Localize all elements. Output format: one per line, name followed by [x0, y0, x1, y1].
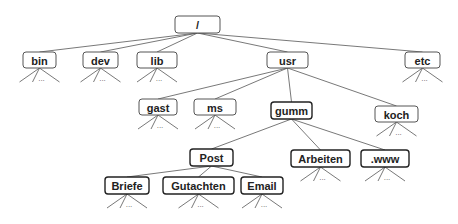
ellipsis-label: ... [319, 173, 326, 182]
folder-label: dev [91, 55, 111, 67]
folder-label: Gutachten [171, 180, 226, 192]
collapsed-fan-ms: ... [195, 115, 235, 130]
folder-label: gumm [275, 105, 308, 117]
collapsed-fan-gast: ... [138, 115, 178, 130]
fan-branch [107, 194, 127, 208]
folder-node-www[interactable]: .www [361, 150, 409, 167]
folder-node-bin[interactable]: bin [23, 52, 56, 68]
fan-branch [179, 194, 199, 208]
folder-node-root[interactable]: / [175, 16, 220, 33]
edge-usr-ms [215, 68, 288, 99]
folder-label: / [196, 19, 199, 31]
ellipsis-label: ... [384, 173, 391, 182]
ellipsis-label: ... [261, 200, 268, 209]
ellipsis-label: ... [157, 121, 164, 130]
collapsed-fan-koch: ... [377, 122, 417, 137]
folder-label: Email [247, 180, 276, 192]
folder-node-arbeiten[interactable]: Arbeiten [291, 150, 350, 167]
edge-root-bin [40, 33, 198, 52]
folder-label: Post [200, 152, 224, 164]
folder-node-gumm[interactable]: gumm [271, 102, 312, 119]
edge-usr-gast [158, 68, 288, 99]
folder-node-gutachten[interactable]: Gutachten [163, 177, 234, 194]
tree-nodes: /bindevlibusretcgastmsgummkochPostArbeit… [23, 16, 440, 194]
edge-gumm-post [212, 119, 292, 149]
edge-root-usr [198, 33, 288, 52]
folder-node-briefe[interactable]: Briefe [105, 177, 149, 194]
fan-branch [377, 122, 397, 136]
edge-post-briefe [127, 166, 212, 177]
ellipsis-label: ... [126, 200, 133, 209]
folder-label: Arbeiten [298, 153, 343, 165]
folder-node-lib[interactable]: lib [137, 52, 177, 68]
folder-node-etc[interactable]: etc [405, 52, 440, 68]
fan-branch [137, 68, 157, 82]
collapsed-fan-dev: ... [81, 68, 121, 83]
ellipsis-label: ... [395, 128, 402, 137]
collapsed-fan-arbeiten: ... [301, 167, 341, 182]
folder-label: .www [371, 153, 400, 165]
folder-node-post[interactable]: Post [190, 149, 233, 166]
folder-label: usr [279, 55, 297, 67]
edge-root-dev [101, 33, 198, 52]
ellipsis-label: ... [214, 121, 221, 130]
folder-node-dev[interactable]: dev [83, 52, 118, 68]
directory-tree-diagram: .................................... /bi… [0, 0, 458, 224]
folder-label: lib [151, 55, 164, 67]
folder-label: bin [31, 55, 48, 67]
fan-branch [20, 68, 40, 82]
fan-branch [242, 194, 262, 208]
folder-node-usr[interactable]: usr [267, 52, 308, 68]
fan-branch [195, 115, 215, 129]
collapsed-fan-lib: ... [137, 68, 177, 83]
collapsed-fan-gutachten: ... [179, 194, 219, 209]
folder-label: koch [384, 109, 410, 121]
edge-root-lib [157, 33, 198, 52]
ellipsis-label: ... [156, 74, 163, 83]
fan-branch [403, 68, 423, 82]
fan-branch [138, 115, 158, 129]
fan-branch [81, 68, 101, 82]
ellipsis-label: ... [99, 74, 106, 83]
folder-node-ms[interactable]: ms [194, 99, 236, 115]
folder-node-email[interactable]: Email [241, 177, 283, 194]
folder-node-koch[interactable]: koch [375, 106, 418, 122]
folder-label: gast [147, 102, 170, 114]
folder-node-gast[interactable]: gast [139, 99, 177, 115]
ellipsis-label: ... [421, 74, 428, 83]
collapsed-fan-etc: ... [403, 68, 443, 83]
edge-post-email [212, 166, 263, 177]
edge-usr-gumm [288, 68, 292, 102]
collapsed-fan-briefe: ... [107, 194, 147, 209]
ellipsis-label: ... [38, 74, 45, 83]
collapsed-fan-email: ... [242, 194, 282, 209]
edge-usr-koch [288, 68, 397, 106]
folder-label: Briefe [111, 180, 142, 192]
folder-label: ms [207, 102, 223, 114]
fan-branch [301, 167, 321, 181]
ellipsis-label: ... [197, 200, 204, 209]
fan-branch [365, 167, 385, 181]
collapsed-fan-www: ... [365, 167, 405, 182]
edge-root-etc [198, 33, 423, 52]
folder-label: etc [415, 55, 431, 67]
collapsed-fan-bin: ... [20, 68, 60, 83]
